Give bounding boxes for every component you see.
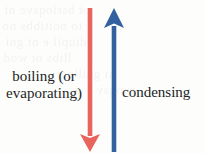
boiling-label: boiling (or evaporating)	[2, 68, 86, 102]
figure-canvas: ot bsrioqsve ni to noitibbs no rdiupil e…	[0, 0, 205, 154]
boiling-label-line-2: evaporating)	[2, 85, 86, 102]
boiling-arrow-head	[80, 134, 100, 152]
boiling-label-line-1: boiling (or	[2, 68, 86, 85]
condensing-arrow-up-icon	[104, 8, 124, 152]
condensing-arrow-head	[104, 8, 124, 28]
condensing-label: condensing	[122, 84, 190, 101]
